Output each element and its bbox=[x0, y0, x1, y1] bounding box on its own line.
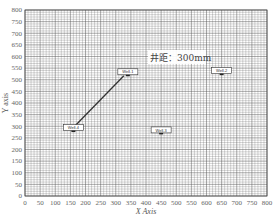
y-tick-label: 750 bbox=[12, 18, 23, 26]
y-axis-ticks: 0501001502002503003504004505005506006507… bbox=[12, 6, 23, 200]
y-tick-label: 300 bbox=[12, 123, 23, 131]
y-tick-label: 550 bbox=[12, 64, 23, 72]
x-tick-label: 250 bbox=[95, 199, 106, 207]
spacing-annotation: 井距：300mm bbox=[148, 50, 212, 64]
well-label: Well-3 bbox=[155, 128, 167, 133]
y-tick-label: 0 bbox=[19, 192, 23, 200]
x-tick-label: 350 bbox=[126, 199, 137, 207]
x-axis-ticks: 0501001502002503003504004505005506006507… bbox=[23, 199, 273, 207]
well-label: Well-1 bbox=[122, 69, 134, 74]
x-tick-label: 150 bbox=[65, 199, 76, 207]
x-tick-label: 800 bbox=[262, 199, 273, 207]
y-tick-label: 800 bbox=[12, 6, 23, 14]
well-spacing-chart: 0501001502002503003504004505005506006507… bbox=[0, 0, 280, 218]
x-tick-label: 0 bbox=[23, 199, 27, 207]
y-tick-label: 50 bbox=[15, 181, 23, 189]
y-tick-label: 350 bbox=[12, 111, 23, 119]
x-tick-label: 500 bbox=[171, 199, 182, 207]
x-tick-label: 50 bbox=[37, 199, 45, 207]
x-tick-label: 200 bbox=[80, 199, 91, 207]
x-tick-label: 400 bbox=[141, 199, 152, 207]
well-label: Well-2 bbox=[216, 68, 228, 73]
y-tick-label: 400 bbox=[12, 99, 23, 107]
x-tick-label: 650 bbox=[216, 199, 227, 207]
grid-lines bbox=[25, 10, 267, 196]
y-tick-label: 600 bbox=[12, 53, 23, 61]
y-tick-label: 700 bbox=[12, 30, 23, 38]
x-tick-label: 700 bbox=[232, 199, 243, 207]
y-tick-label: 500 bbox=[12, 76, 23, 84]
y-tick-label: 250 bbox=[12, 134, 23, 142]
x-tick-label: 300 bbox=[111, 199, 122, 207]
x-axis-label: X Axis bbox=[135, 207, 157, 216]
x-tick-label: 600 bbox=[201, 199, 212, 207]
y-tick-label: 100 bbox=[12, 169, 23, 177]
x-tick-label: 550 bbox=[186, 199, 197, 207]
spacing-annotation-text: 井距：300mm bbox=[150, 52, 212, 63]
annotations: 井距：300mm bbox=[148, 50, 212, 64]
y-tick-label: 150 bbox=[12, 157, 23, 165]
x-tick-label: 450 bbox=[156, 199, 167, 207]
well-label: Well-4 bbox=[68, 125, 80, 130]
x-tick-label: 750 bbox=[247, 199, 258, 207]
well-marker-well-2: Well-2 bbox=[212, 68, 232, 76]
y-axis-label: Y axis bbox=[1, 93, 10, 113]
x-tick-label: 100 bbox=[50, 199, 61, 207]
y-tick-label: 650 bbox=[12, 41, 23, 49]
y-tick-label: 450 bbox=[12, 88, 23, 96]
y-tick-label: 200 bbox=[12, 146, 23, 154]
